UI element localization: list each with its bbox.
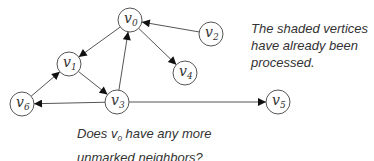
vertex-v3: v3 [105, 90, 129, 114]
shaded-vertices-note: The shaded vertices have already been pr… [251, 20, 368, 71]
question-line-1: Does v0 have any more [77, 124, 212, 148]
vertex-v5: v5 [266, 90, 290, 114]
edge-v0-to-v1 [79, 27, 121, 57]
question-note: Does v0 have any more unmarked neighbors… [77, 124, 212, 161]
edge-v2-to-v0 [142, 22, 199, 32]
edge-v1-to-v3 [78, 71, 107, 94]
vertex-v1: v1 [57, 52, 81, 76]
question-line-2: unmarked neighbors? [77, 148, 212, 161]
edge-v3-to-v6 [34, 102, 105, 103]
vertex-v2: v2 [199, 22, 223, 46]
nodes: v0v1v2v3v4v5v6 [10, 8, 290, 116]
edge-v0-to-v4 [139, 28, 177, 64]
question-post: have any more [122, 126, 212, 141]
note-line-2: have already been [251, 37, 368, 54]
vertex-v6: v6 [10, 92, 34, 116]
vertex-v0: v0 [118, 8, 142, 32]
question-pre: Does v [77, 126, 117, 141]
edge-v3-to-v0 [119, 32, 128, 90]
vertex-v4: v4 [173, 61, 197, 85]
edge-v6-to-v1 [31, 72, 60, 96]
note-line-3: processed. [251, 54, 368, 71]
note-line-1: The shaded vertices [251, 20, 368, 37]
